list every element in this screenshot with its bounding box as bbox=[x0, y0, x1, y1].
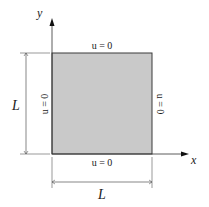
width-dimension-label: L bbox=[97, 187, 106, 202]
x-axis-arrowhead-icon bbox=[181, 152, 189, 157]
x-axis-label: x bbox=[190, 153, 197, 167]
bc-bottom-label: u = 0 bbox=[92, 157, 113, 168]
boundary-value-diagram: y x u = 0 u = 0 u = 0 u = 0 L L bbox=[0, 0, 209, 207]
bc-right-label: u = 0 bbox=[155, 94, 166, 115]
bc-top-label: u = 0 bbox=[92, 40, 113, 51]
y-axis-label: y bbox=[36, 6, 43, 20]
square-domain bbox=[52, 53, 152, 154]
y-axis-arrowhead-icon bbox=[50, 18, 55, 26]
height-dimension-label: L bbox=[11, 98, 20, 113]
bc-left-label: u = 0 bbox=[39, 94, 50, 115]
